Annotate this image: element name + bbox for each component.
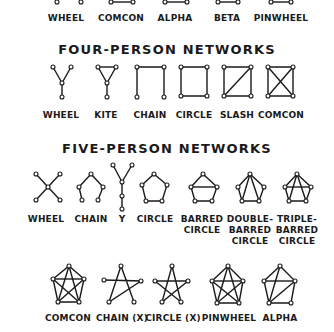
five-comcon-graph — [51, 264, 86, 304]
network-label: COMCON — [45, 313, 91, 324]
five-wheel-graph — [34, 172, 62, 202]
five-pinwheel-graph — [210, 264, 245, 305]
network-label: CIRCLE — [137, 214, 174, 225]
network-label: Y — [119, 214, 126, 225]
three-alpha-graph — [163, 0, 189, 4]
five-y-graph — [111, 163, 134, 211]
five-chain-graph — [77, 172, 105, 202]
network-label: BETA — [214, 13, 240, 24]
five-double-barred-circle-graph — [236, 172, 266, 203]
network-label: SLASH — [220, 110, 254, 121]
network-label: PINWHEEL — [254, 13, 309, 24]
network-label: KITE — [94, 110, 117, 121]
network-label: CIRCLE — [176, 110, 213, 121]
network-label: BARRED CIRCLE — [181, 214, 224, 236]
network-label: COMCON — [98, 13, 144, 24]
network-label: PINWHEEL — [202, 313, 257, 324]
five-chain-x-graph — [102, 264, 143, 304]
network-label: TRIPLE- BARRED CIRCLE — [276, 214, 319, 247]
three-wheel-graph — [55, 0, 83, 4]
five-barred-circle-graph — [189, 172, 219, 203]
three-beta-graph — [216, 0, 240, 4]
section-title-five-person: FIVE-PERSON NETWORKS — [0, 141, 334, 156]
five-triple-barred-circle-graph — [283, 172, 313, 203]
three-comcon-graph — [109, 0, 135, 4]
five-circle-x-graph — [153, 264, 190, 304]
four-circle-graph — [179, 65, 209, 98]
three-pinwheel-graph — [269, 0, 293, 4]
network-label: ALPHA — [263, 313, 298, 324]
four-kite-graph — [96, 65, 118, 99]
network-label: CIRCLE (X) — [145, 313, 201, 324]
network-label: CHAIN (X) — [96, 313, 148, 324]
network-label: COMCON — [258, 110, 304, 121]
network-label: WHEEL — [28, 214, 65, 225]
network-label: DOUBLE- BARRED CIRCLE — [227, 214, 273, 247]
section-title-four-person: FOUR-PERSON NETWORKS — [0, 42, 334, 57]
network-label: CHAIN — [75, 214, 108, 225]
network-label: WHEEL — [43, 110, 80, 121]
five-circle-graph — [140, 172, 169, 203]
four-wheel-graph — [51, 65, 73, 99]
four-comcon-graph — [266, 65, 295, 98]
four-slash-graph — [222, 65, 253, 98]
network-label: ALPHA — [158, 13, 193, 24]
network-label: WHEEL — [48, 13, 85, 24]
five-alpha-graph — [262, 264, 297, 305]
four-chain-graph — [135, 65, 166, 99]
network-label: CHAIN — [134, 110, 167, 121]
